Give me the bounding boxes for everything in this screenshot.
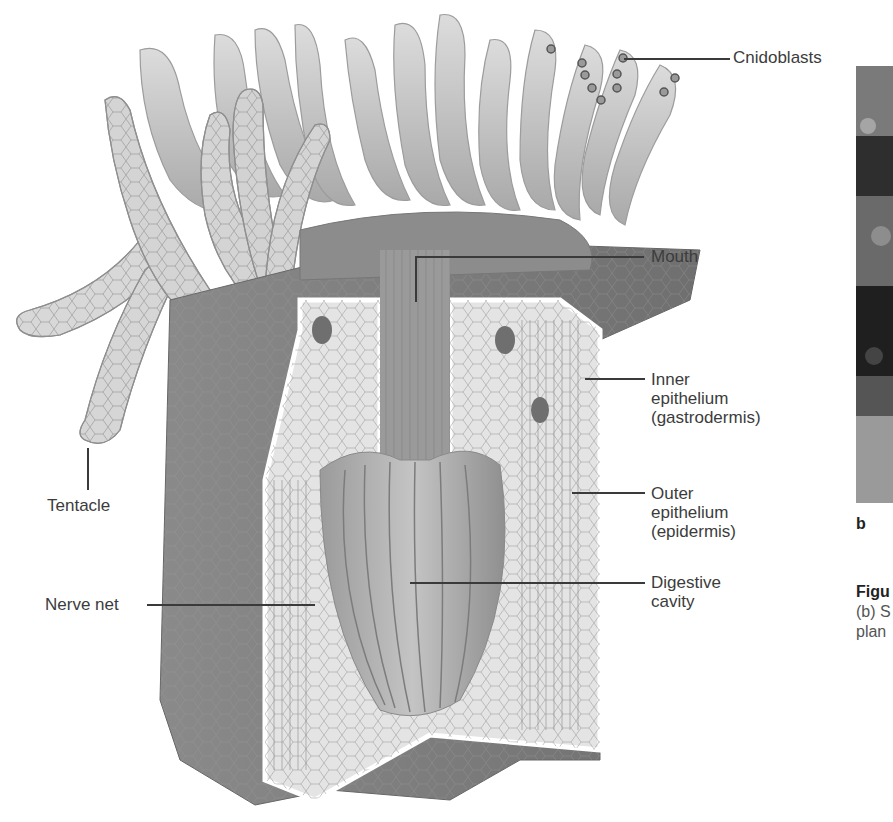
photo-panel-b xyxy=(856,66,893,503)
label-digestive-cavity: Digestive cavity xyxy=(651,573,721,611)
leader-nerve-net xyxy=(147,604,315,606)
leader-digestive-cavity xyxy=(410,582,645,584)
leader-tentacle xyxy=(87,448,89,490)
caption-line-2: plan xyxy=(856,623,886,640)
gonad xyxy=(531,397,549,423)
gonad xyxy=(312,316,332,344)
panel-letter: b xyxy=(856,515,866,533)
label-mouth: Mouth xyxy=(651,247,698,266)
figure-caption: Figu (b) S plan xyxy=(856,582,891,642)
label-outer-epithelium: Outer epithelium (epidermis) xyxy=(651,484,736,541)
caption-line-1: (b) S xyxy=(856,603,891,620)
leader-inner-epithelium xyxy=(585,378,645,380)
leader-outer-epithelium xyxy=(572,492,645,494)
label-inner-epithelium: Inner epithelium (gastrodermis) xyxy=(651,370,761,427)
leader-mouth xyxy=(415,256,644,258)
leader-mouth-vertical xyxy=(415,256,417,302)
caption-bold: Figu xyxy=(856,583,890,600)
leader-cnidoblasts xyxy=(624,58,730,60)
label-cnidoblasts: Cnidoblasts xyxy=(733,48,822,67)
gonad xyxy=(495,326,515,354)
label-tentacle: Tentacle xyxy=(47,496,110,515)
label-nerve-net: Nerve net xyxy=(45,595,119,614)
